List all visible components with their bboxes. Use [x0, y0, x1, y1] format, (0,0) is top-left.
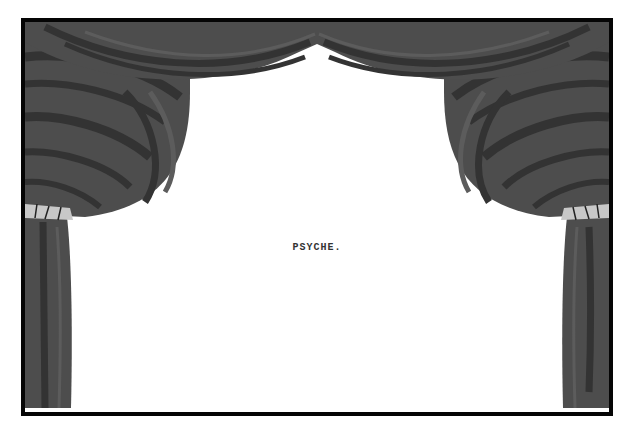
scene-title: PSYCHE. [25, 242, 609, 253]
curtain-graphic [25, 22, 609, 412]
top-valance [25, 22, 609, 80]
stage-frame: PSYCHE. [21, 18, 613, 416]
